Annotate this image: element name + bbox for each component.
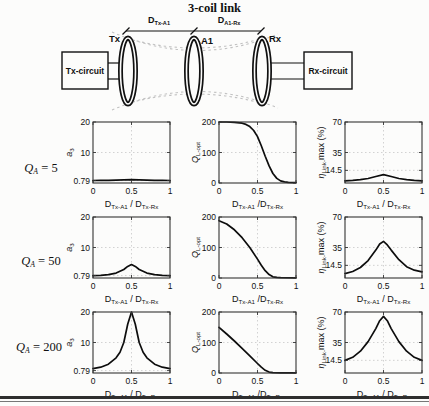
svg-text:70: 70	[333, 212, 343, 222]
svg-text:DTx-A1 / DTx-Rx: DTx-A1 / DTx-Rx	[105, 294, 159, 305]
svg-text:0: 0	[91, 281, 96, 291]
svg-text:0.79: 0.79	[73, 366, 90, 376]
svg-text:20: 20	[81, 117, 91, 127]
svg-text:1: 1	[420, 186, 425, 196]
svg-text:0.5: 0.5	[126, 281, 138, 291]
svg-text:QL-opt: QL-opt	[190, 332, 201, 353]
svg-text:0: 0	[211, 273, 216, 283]
svg-text:0: 0	[211, 178, 216, 188]
plot-eta-qa5: 00.5114.53570DTx-A1 / DTx-RxηLink-max (%…	[315, 117, 428, 212]
svg-text:DTx-A1 / DTx-Rx: DTx-A1 / DTx-Rx	[105, 199, 159, 210]
svg-text:QL-opt: QL-opt	[190, 142, 201, 163]
svg-text:0.5: 0.5	[252, 281, 264, 291]
svg-text:70: 70	[333, 307, 343, 317]
svg-text:ηLink-max (%): ηLink-max (%)	[316, 127, 327, 179]
plot-qlopt-qa50: 00.510100200DTx-A1 /DTx-RxQL-opt	[189, 212, 302, 307]
svg-text:ηLink-max (%): ηLink-max (%)	[316, 317, 327, 369]
svg-text:1: 1	[168, 281, 173, 291]
coil-label-tx: Tx	[98, 33, 120, 44]
plot-qlopt-qa5: 00.510100200DTx-A1 /DTx-RxQL-opt	[189, 117, 302, 212]
svg-text:10: 10	[81, 148, 91, 158]
svg-text:14.5: 14.5	[325, 355, 342, 365]
svg-text:35: 35	[333, 338, 343, 348]
svg-text:100: 100	[202, 338, 216, 348]
dim-label-a1-rx: DA1-Rx	[198, 15, 260, 26]
svg-text:0: 0	[217, 376, 222, 386]
svg-text:a3: a3	[64, 243, 75, 252]
svg-text:0.5: 0.5	[252, 186, 264, 196]
svg-text:20: 20	[81, 307, 91, 317]
svg-text:1: 1	[294, 186, 299, 196]
dimension-line	[123, 28, 265, 35]
svg-text:1: 1	[420, 376, 425, 386]
svg-text:1: 1	[168, 186, 173, 196]
svg-text:0.79: 0.79	[73, 176, 90, 186]
svg-text:DTx-A1 / DTx-Rx: DTx-A1 / DTx-Rx	[357, 199, 411, 210]
plot-a3-qa200: 00.510.791020DTx-A1 / DTx-Rxa3	[63, 307, 176, 402]
svg-text:200: 200	[202, 212, 216, 222]
svg-text:0: 0	[91, 376, 96, 386]
tx-circuit-label: Tx-circuit	[62, 52, 108, 89]
plot-qlopt-qa200: 00.510100200DTx-A1 /DTx-RxQL-opt	[189, 307, 302, 402]
svg-text:70: 70	[333, 117, 343, 127]
svg-text:0: 0	[343, 376, 348, 386]
coil-label-a1: A1	[201, 35, 225, 46]
svg-text:0.5: 0.5	[126, 186, 138, 196]
svg-text:0.5: 0.5	[378, 281, 390, 291]
figure-3-coil-link: 3-coil link	[0, 0, 429, 406]
svg-text:1: 1	[294, 376, 299, 386]
svg-text:0: 0	[343, 281, 348, 291]
plot-a3-qa50: 00.510.791020DTx-A1 / DTx-Rxa3	[63, 212, 176, 307]
svg-text:100: 100	[202, 148, 216, 158]
svg-text:10: 10	[81, 338, 91, 348]
svg-text:ηLink-max (%): ηLink-max (%)	[316, 222, 327, 274]
svg-text:a3: a3	[64, 148, 75, 157]
svg-text:DTx-A1 /DTx-Rx: DTx-A1 /DTx-Rx	[232, 294, 284, 305]
svg-text:20: 20	[81, 212, 91, 222]
svg-text:a3: a3	[64, 338, 75, 347]
svg-text:1: 1	[420, 281, 425, 291]
bottom-rule-thick	[0, 396, 429, 399]
svg-text:0: 0	[91, 186, 96, 196]
svg-text:1: 1	[294, 281, 299, 291]
svg-text:0.79: 0.79	[73, 271, 90, 281]
svg-text:0.5: 0.5	[252, 376, 264, 386]
svg-text:DTx-A1 /DTx-Rx: DTx-A1 /DTx-Rx	[232, 199, 284, 210]
svg-text:0: 0	[211, 368, 216, 378]
svg-text:0.5: 0.5	[378, 186, 390, 196]
svg-text:0: 0	[343, 186, 348, 196]
svg-text:QL-opt: QL-opt	[190, 237, 201, 258]
svg-text:35: 35	[333, 243, 343, 253]
svg-text:200: 200	[202, 307, 216, 317]
coils	[121, 38, 270, 104]
svg-text:14.5: 14.5	[325, 260, 342, 270]
plot-eta-qa200: 00.5114.53570DTx-A1 / DTx-RxηLink-max (%…	[315, 307, 428, 402]
svg-text:0.5: 0.5	[378, 376, 390, 386]
svg-text:0: 0	[217, 281, 222, 291]
svg-text:35: 35	[333, 148, 343, 158]
bottom-rule-thin	[0, 401, 429, 402]
svg-text:0: 0	[217, 186, 222, 196]
plot-eta-qa50: 00.5114.53570DTx-A1 / DTx-RxηLink-max (%…	[315, 212, 428, 307]
svg-text:200: 200	[202, 117, 216, 127]
svg-text:14.5: 14.5	[325, 165, 342, 175]
rx-circuit-label: Rx-circuit	[304, 52, 352, 89]
coil-label-rx: Rx	[269, 33, 293, 44]
svg-text:10: 10	[81, 243, 91, 253]
svg-text:100: 100	[202, 243, 216, 253]
svg-text:DTx-A1 / DTx-Rx: DTx-A1 / DTx-Rx	[357, 294, 411, 305]
dim-label-tx-a1: DTx-A1	[128, 15, 190, 26]
svg-text:1: 1	[168, 376, 173, 386]
svg-text:0.5: 0.5	[126, 376, 138, 386]
plot-a3-qa5: 00.510.791020DTx-A1 / DTx-Rxa3	[63, 117, 176, 212]
